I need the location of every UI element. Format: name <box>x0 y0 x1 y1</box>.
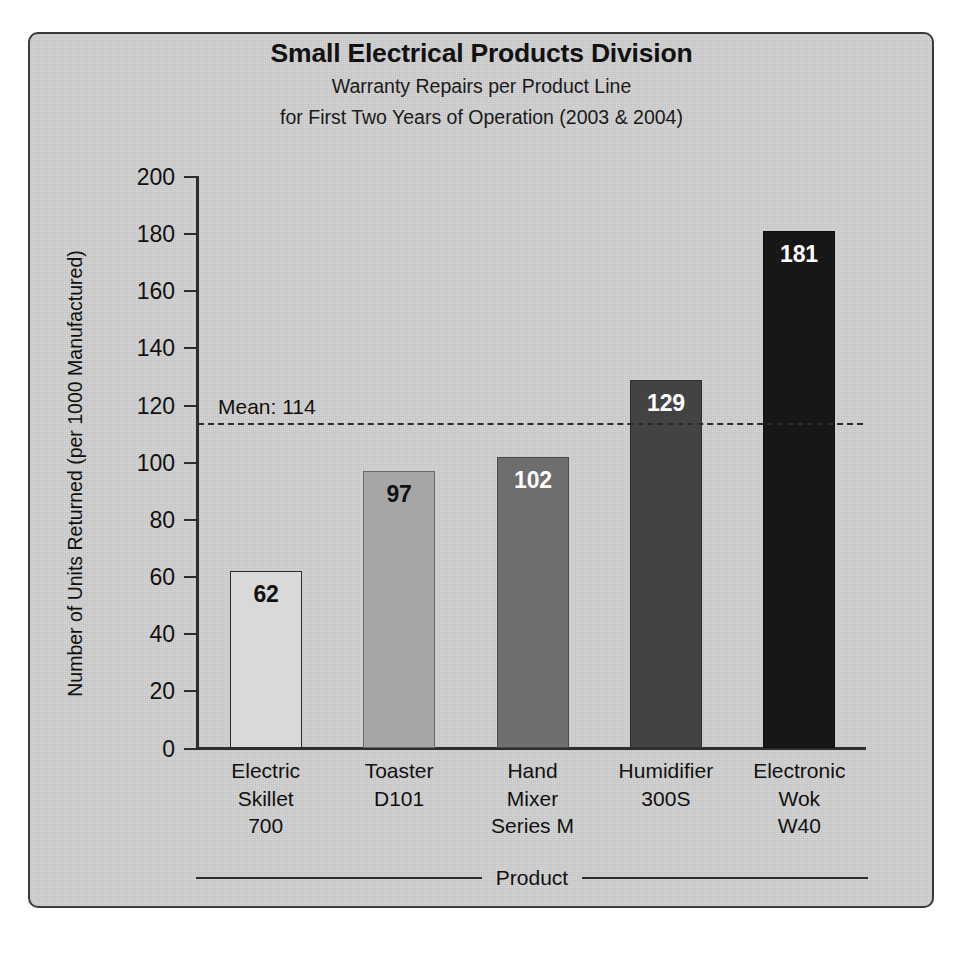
y-axis-tick <box>184 176 197 178</box>
x-axis-title-rule-right <box>582 877 868 879</box>
y-axis-tick-label: 60 <box>55 564 175 591</box>
x-axis-title-rule-left <box>196 877 482 879</box>
bar[interactable]: 97 <box>363 471 435 748</box>
x-axis-category-line: W40 <box>733 812 866 840</box>
y-axis-tick <box>184 690 197 692</box>
bar-value-label: 62 <box>231 581 301 608</box>
x-axis-category-line: 700 <box>199 812 332 840</box>
bar[interactable]: 102 <box>497 457 569 748</box>
y-axis-tick-label: 40 <box>55 621 175 648</box>
y-axis-tick-label: 0 <box>55 735 175 762</box>
x-axis-category-line: D101 <box>332 785 465 813</box>
bar[interactable]: 62 <box>230 571 302 748</box>
x-axis-category-label: HandMixerSeries M <box>466 757 599 840</box>
x-axis-category-line: 300S <box>599 785 732 813</box>
x-axis-category-line: Humidifier <box>599 757 732 785</box>
y-axis-tick-label: 180 <box>55 221 175 248</box>
bar[interactable]: 181 <box>763 231 835 748</box>
y-axis-tick-label: 80 <box>55 506 175 533</box>
x-axis-category-label: ElectronicWokW40 <box>733 757 866 840</box>
bar-value-label: 181 <box>764 241 834 268</box>
mean-reference-line <box>198 423 863 425</box>
y-axis-tick-label: 200 <box>55 164 175 191</box>
y-axis-tick <box>184 748 197 750</box>
y-axis-tick-label: 100 <box>55 449 175 476</box>
bar-value-label: 129 <box>631 390 701 417</box>
y-axis-tick-label: 140 <box>55 335 175 362</box>
y-axis-tick-label: 20 <box>55 678 175 705</box>
y-axis-tick <box>184 576 197 578</box>
x-axis-category-line: Series M <box>466 812 599 840</box>
x-axis-category-line: Skillet <box>199 785 332 813</box>
x-axis-category-label: ToasterD101 <box>332 757 465 812</box>
mean-line-label: Mean: 114 <box>218 395 316 419</box>
x-axis-title-row: Product <box>196 866 868 890</box>
y-axis-tick <box>184 347 197 349</box>
y-axis-tick <box>184 462 197 464</box>
plot-area: Number of Units Returned (per 1000 Manuf… <box>0 0 963 963</box>
x-axis-category-line: Mixer <box>466 785 599 813</box>
bar[interactable]: 129 <box>630 380 702 749</box>
y-axis-tick <box>184 233 197 235</box>
y-axis-tick-label: 160 <box>55 278 175 305</box>
x-axis-category-line: Toaster <box>332 757 465 785</box>
bar-value-label: 102 <box>498 467 568 494</box>
x-axis-category-line: Hand <box>466 757 599 785</box>
y-axis-tick <box>184 519 197 521</box>
y-axis-tick <box>184 405 197 407</box>
y-axis-tick <box>184 633 197 635</box>
x-axis-category-line: Wok <box>733 785 866 813</box>
bar-value-label: 97 <box>364 481 434 508</box>
x-axis-category-line: Electronic <box>733 757 866 785</box>
y-axis-tick-label: 120 <box>55 392 175 419</box>
x-axis-title: Product <box>496 866 568 890</box>
chart-page: Small Electrical Products Division Warra… <box>0 0 963 963</box>
x-axis-category-label: Humidifier300S <box>599 757 732 812</box>
x-axis-category-line: Electric <box>199 757 332 785</box>
x-axis-category-label: ElectricSkillet700 <box>199 757 332 840</box>
y-axis-tick <box>184 290 197 292</box>
